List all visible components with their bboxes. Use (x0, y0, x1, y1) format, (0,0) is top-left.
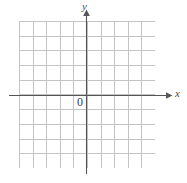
y-axis-label: y (82, 1, 87, 12)
grid-area (19, 21, 155, 168)
x-axis-label: x (175, 88, 180, 99)
x-axis-arrowhead (166, 92, 173, 99)
origin-label: 0 (77, 96, 83, 108)
coordinate-plane-figure: y x 0 (0, 0, 187, 183)
